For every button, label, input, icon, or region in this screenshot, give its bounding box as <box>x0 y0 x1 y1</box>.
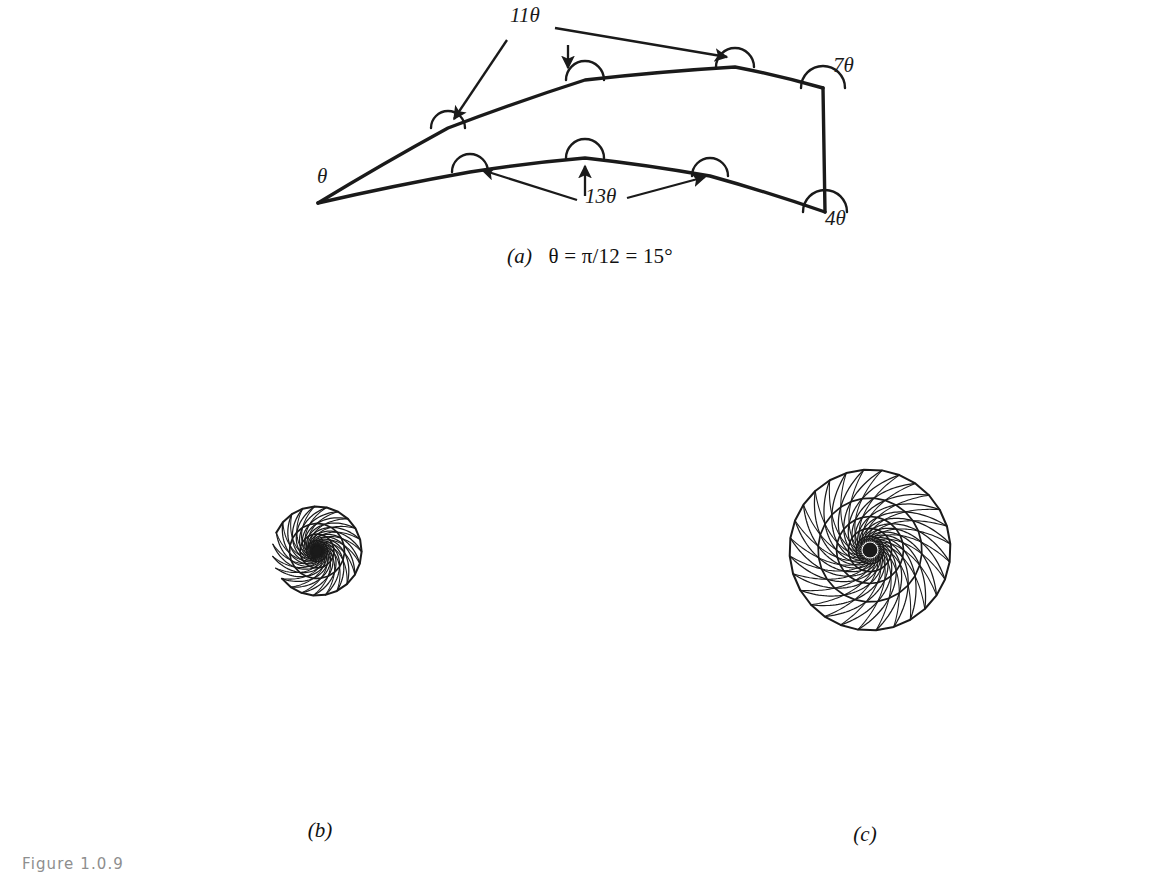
tile-lower-edge <box>318 158 825 212</box>
panel-a-caption: (a) θ = π/12 = 15° <box>380 244 800 269</box>
panel-b-spiral-tiling <box>0 283 635 813</box>
arc-upper-left <box>431 111 465 128</box>
tile-upper-edge <box>318 67 823 203</box>
spiral-center-dot <box>313 547 322 556</box>
label-theta: θ <box>317 164 327 188</box>
figure-root: θ11θ13θ7θ4θ (a) θ = π/12 = 15° (b) (c) F… <box>0 0 1170 873</box>
svg-b-tiling-group <box>273 506 362 595</box>
arrow-13theta-to-lower-right <box>627 177 705 198</box>
panel-b-svg <box>0 283 635 813</box>
svg-c-tiling-group <box>790 470 951 631</box>
tile-right-edge <box>823 88 825 212</box>
arc-lower-mid <box>566 139 604 158</box>
panel-a-svg: θ11θ13θ7θ4θ <box>255 0 915 240</box>
arrow-11theta-to-upper-right <box>555 28 727 57</box>
label-eleven-theta: 11θ <box>510 3 540 27</box>
label-four-theta: 4θ <box>825 206 846 230</box>
arrow-13theta-to-lower-left <box>482 170 577 200</box>
panel-c-svg <box>590 288 1165 818</box>
arc-upper-right <box>716 48 754 67</box>
panel-c-label: (c) <box>835 822 895 847</box>
panel-c-spiral-tiling <box>590 288 1165 818</box>
panel-a-tile-diagram: θ11θ13θ7θ4θ <box>255 0 915 240</box>
panel-b-label: (b) <box>290 818 350 843</box>
panel-a-label: (a) <box>507 244 532 268</box>
label-seven-theta: 7θ <box>833 53 854 77</box>
label-thirteen-theta: 13θ <box>585 184 616 208</box>
arrow-11theta-to-upper-left <box>454 40 507 119</box>
spiral-center-dot <box>863 543 878 558</box>
figure-caption-number: Figure 1.0.9 <box>22 855 124 873</box>
panel-a-caption-text: θ = π/12 = 15° <box>549 244 673 268</box>
